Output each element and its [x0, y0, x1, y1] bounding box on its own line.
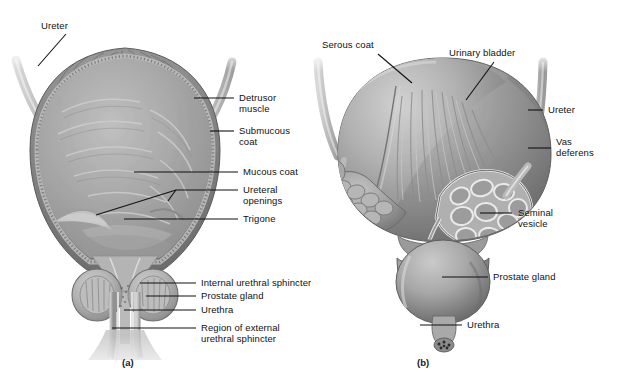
- panel-caption-b: (b): [417, 357, 429, 368]
- label-trigone: Trigone: [243, 213, 276, 225]
- label-submucous-coat-line2: coat: [239, 136, 257, 148]
- label-serous-coat: Serous coat: [322, 39, 374, 51]
- label-vas-deferens-line2: deferens: [556, 147, 594, 159]
- label-region-external-sphincter-line1: Region of external: [201, 322, 280, 334]
- anatomy-illustration: [0, 0, 621, 382]
- label-urinary-bladder: Urinary bladder: [449, 47, 515, 59]
- label-vas-deferens-line1: Vas: [556, 136, 572, 148]
- figure-root: Ureter Detrusor muscle Submucous coat Mu…: [0, 0, 621, 382]
- label-region-external-sphincter-line2: urethral sphincter: [201, 333, 276, 345]
- label-detrusor-muscle-line2: muscle: [239, 103, 270, 115]
- label-urethra-a: Urethra: [201, 304, 233, 316]
- panel-caption-a: (a): [122, 357, 134, 368]
- label-seminal-vesicle-line1: Seminal: [518, 207, 553, 219]
- leader-ureter-a: [38, 34, 66, 66]
- label-internal-urethral-sphincter: Internal urethral sphincter: [201, 277, 311, 289]
- urethra-opening-b: [434, 338, 454, 352]
- external-urethral-sphincter-a: [70, 330, 182, 382]
- label-ureteral-openings-line2: openings: [243, 195, 282, 207]
- label-submucous-coat-line1: Submucous: [239, 125, 290, 137]
- panel-b-graphic: [308, 52, 554, 352]
- label-ureter-a: Ureter: [41, 20, 68, 32]
- label-prostate-gland-a: Prostate gland: [201, 290, 264, 302]
- label-urethra-b: Urethra: [467, 319, 499, 331]
- label-mucous-coat: Mucous coat: [243, 166, 298, 178]
- ureter-left-b: [308, 52, 338, 156]
- label-ureter-b: Ureter: [548, 104, 575, 116]
- label-prostate-gland-b: Prostate gland: [493, 271, 556, 283]
- label-seminal-vesicle-line2: vesicle: [518, 218, 548, 230]
- label-ureteral-openings-line1: Ureteral: [243, 184, 278, 196]
- label-detrusor-muscle-line1: Detrusor: [239, 92, 276, 104]
- prostate-gland-b: [396, 240, 490, 352]
